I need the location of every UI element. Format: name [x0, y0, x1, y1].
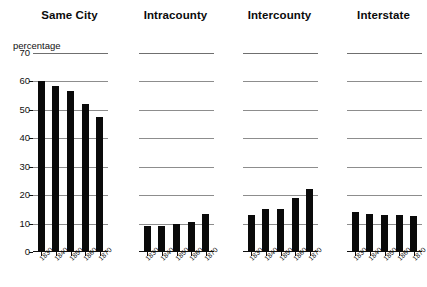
y-axis-unit-label: percentage — [13, 41, 61, 51]
bar — [173, 224, 180, 252]
chart-figure: Same City1020304050607001830184018501860… — [0, 0, 427, 287]
bar — [410, 216, 417, 252]
chart-panel: Interstate18301840185018601870 — [347, 0, 420, 287]
bar — [38, 81, 45, 252]
bar — [381, 215, 388, 252]
chart-panel: Intercounty18301840185018601870 — [243, 0, 316, 287]
x-axis-ticks: 18301840185018601870 — [33, 252, 106, 287]
bar — [188, 222, 195, 252]
bar-group — [33, 53, 106, 252]
panel-title: Same City — [33, 9, 106, 21]
bar — [248, 215, 255, 252]
bar — [96, 117, 103, 252]
x-axis-ticks: 18301840185018601870 — [347, 252, 420, 287]
bar — [144, 226, 151, 252]
bar — [202, 214, 209, 252]
panel-title: Interstate — [347, 9, 420, 21]
plot-area — [347, 53, 420, 252]
x-axis-ticks: 18301840185018601870 — [139, 252, 212, 287]
bar — [67, 91, 74, 252]
bar — [158, 226, 165, 252]
plot-area — [243, 53, 316, 252]
bar — [82, 104, 89, 252]
chart-panel: Intracounty18301840185018601870 — [139, 0, 212, 287]
bar — [52, 86, 59, 252]
bar — [277, 209, 284, 252]
bar — [352, 212, 359, 252]
bar-group — [139, 53, 212, 252]
panel-title: Intercounty — [243, 9, 316, 21]
bar — [292, 198, 299, 252]
bar — [396, 215, 403, 252]
bar-group — [347, 53, 420, 252]
bar — [306, 189, 313, 252]
panel-title: Intracounty — [139, 9, 212, 21]
bar — [262, 209, 269, 252]
x-axis-ticks: 18301840185018601870 — [243, 252, 316, 287]
plot-area — [139, 53, 212, 252]
plot-area: 102030405060700 — [33, 53, 106, 252]
bar-group — [243, 53, 316, 252]
bar — [366, 214, 373, 252]
